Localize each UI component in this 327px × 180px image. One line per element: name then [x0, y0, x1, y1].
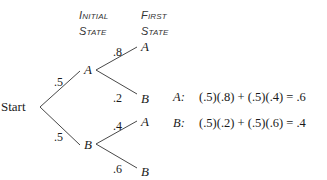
prob-a-b: .2: [113, 92, 122, 104]
node-a-a: A: [141, 40, 149, 53]
node-b-b: B: [141, 165, 149, 178]
header-initial-state: Initial State: [79, 10, 108, 37]
equation-a: A: (.5)(.8) + (.5)(.4) = .6: [173, 91, 306, 104]
prob-b-b: .6: [113, 163, 122, 175]
header-first-line1: First: [141, 10, 169, 21]
equation-a-expr: (.5)(.8) + (.5)(.4) = .6: [199, 90, 306, 104]
prob-start-b: .5: [54, 131, 63, 143]
header-first-state: First State: [141, 10, 169, 37]
node-a-b: B: [141, 92, 149, 105]
header-initial-line2: State: [79, 26, 108, 37]
equation-b-expr: (.5)(.2) + (.5)(.6) = .4: [199, 116, 306, 130]
node-b-a: A: [141, 115, 149, 128]
prob-b-a: .4: [113, 120, 122, 132]
equation-a-label: A:: [173, 90, 185, 104]
prob-start-a: .5: [54, 76, 63, 88]
header-initial-line1: Initial: [79, 10, 108, 21]
equation-b-label: B:: [173, 116, 185, 130]
prob-a-a: .8: [113, 46, 122, 58]
node-a-initial: A: [84, 63, 92, 76]
header-first-line2: State: [141, 26, 169, 37]
equation-b: B: (.5)(.2) + (.5)(.6) = .4: [173, 117, 306, 130]
node-b-initial: B: [84, 138, 92, 151]
start-node: Start: [1, 100, 26, 113]
